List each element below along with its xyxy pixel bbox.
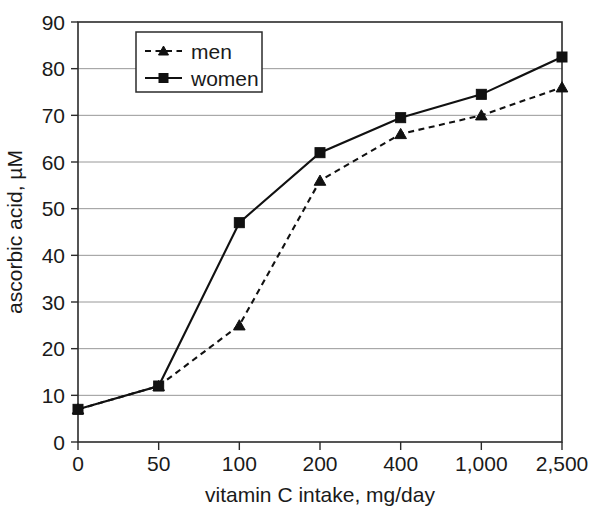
x-axis: 0501002004001,0002,500 — [72, 442, 588, 475]
legend-label-men: men — [191, 40, 232, 63]
y-tick-label: 10 — [42, 384, 65, 407]
y-axis: 0102030405060708090 — [42, 11, 78, 454]
y-tick-label: 60 — [42, 151, 65, 174]
data-point-women — [315, 148, 325, 158]
chart-container: 0102030405060708090 0501002004001,0002,5… — [0, 0, 599, 512]
x-tick-label: 400 — [383, 452, 418, 475]
square-marker-icon — [159, 74, 168, 83]
data-point-women — [234, 218, 244, 228]
y-tick-label: 40 — [42, 244, 65, 267]
data-point-women — [154, 381, 164, 391]
y-axis-title: ascorbic acid, µM — [3, 150, 26, 314]
line-chart: 0102030405060708090 0501002004001,0002,5… — [0, 0, 599, 512]
y-tick-label: 20 — [42, 337, 65, 360]
y-tick-label: 70 — [42, 104, 65, 127]
legend-label-women: women — [190, 67, 259, 90]
chart-legend: men women — [136, 32, 262, 92]
data-point-women — [396, 113, 406, 123]
data-point-women — [476, 89, 486, 99]
x-tick-label: 200 — [302, 452, 337, 475]
data-point-women — [73, 404, 83, 414]
x-tick-label: 1,000 — [455, 452, 508, 475]
y-tick-label: 80 — [42, 57, 65, 80]
x-tick-label: 0 — [72, 452, 84, 475]
y-tick-label: 50 — [42, 197, 65, 220]
y-tick-label: 0 — [53, 431, 65, 454]
data-point-women — [557, 52, 567, 62]
x-axis-title: vitamin C intake, mg/day — [205, 483, 435, 506]
x-tick-label: 2,500 — [536, 452, 589, 475]
y-tick-label: 30 — [42, 291, 65, 314]
x-tick-label: 50 — [147, 452, 170, 475]
y-tick-label: 90 — [42, 11, 65, 34]
x-tick-label: 100 — [222, 452, 257, 475]
